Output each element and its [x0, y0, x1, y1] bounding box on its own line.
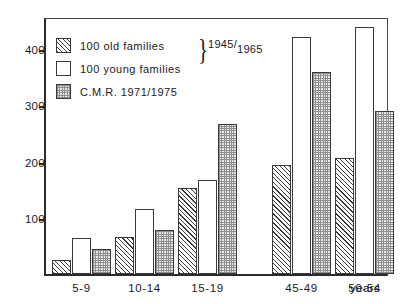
y-tick-label: 200	[11, 157, 45, 169]
x-axis-unit-label: years	[350, 282, 380, 294]
y-tick-label: 300	[11, 100, 45, 112]
y-axis-line	[44, 18, 46, 276]
x-tick-label-15-19: 15-19	[170, 282, 245, 294]
x-axis-line	[44, 274, 388, 276]
bar-10-14-series1	[115, 237, 134, 274]
bar-50-54-series2	[355, 27, 374, 274]
bar-50-54-series1	[335, 158, 354, 274]
bar-5-9-series3	[92, 249, 111, 274]
bar-45-49-series1	[272, 165, 291, 274]
bar-45-49-series3	[312, 72, 331, 274]
legend-label: 100 old families	[80, 40, 164, 52]
legend-swatch-dotted	[56, 84, 71, 99]
bar-15-19-series2	[198, 180, 217, 274]
legend-label: 100 young families	[80, 63, 181, 75]
legend-swatch-plain	[56, 61, 71, 76]
legend-brace: }	[198, 34, 208, 64]
brace-label-main: 1945/	[208, 38, 237, 50]
legend-item-old-families: 100 old families	[56, 36, 181, 55]
legend-item-young-families: 100 young families	[56, 59, 181, 78]
bar-50-54-series3	[375, 111, 394, 274]
legend-swatch-hatch	[56, 38, 71, 53]
brace-label-sub: 1965	[237, 43, 263, 55]
legend-label: C.M.R. 1971/1975	[80, 86, 177, 98]
bar-5-9-series2	[72, 238, 91, 274]
plot-top-border	[44, 18, 388, 19]
legend-item-cmr: C.M.R. 1971/1975	[56, 82, 181, 101]
legend-brace-label: 1945/1965	[208, 38, 263, 55]
y-tick-label: 100	[11, 213, 45, 225]
bar-45-49-series2	[292, 37, 311, 275]
bar-15-19-series1	[178, 188, 197, 274]
bar-5-9-series1	[52, 260, 71, 274]
bar-15-19-series3	[218, 124, 237, 274]
bar-10-14-series3	[155, 230, 174, 274]
y-tick-label: 400	[11, 44, 45, 56]
bar-10-14-series2	[135, 209, 154, 274]
bar-chart: 400 300 200 100 100 old families 100 you…	[0, 0, 409, 304]
chart-legend: 100 old families 100 young families C.M.…	[56, 36, 181, 105]
